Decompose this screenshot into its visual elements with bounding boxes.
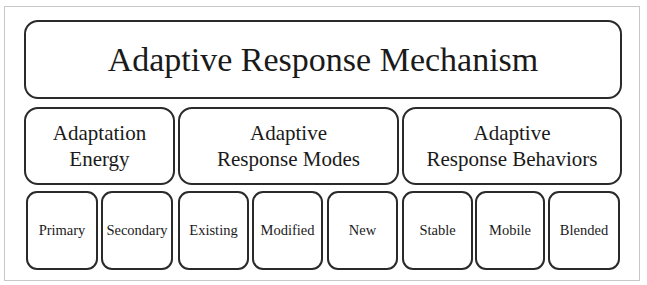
leaf-label: Primary [39,222,86,239]
leaf-node-existing: Existing [178,191,249,270]
category-node-adaptive-response-modes: Adaptive Response Modes [178,107,399,185]
leaf-node-modified: Modified [252,191,323,270]
category-node-adaptation-energy: Adaptation Energy [24,107,175,185]
root-node-label: Adaptive Response Mechanism [108,41,539,79]
leaf-node-mobile: Mobile [475,191,545,270]
category-label-line1: Adaptive [427,120,598,146]
leaf-node-blended: Blended [548,191,620,270]
category-label-line2: Energy [53,146,146,172]
category-label-line1: Adaptation [53,120,146,146]
leaf-node-secondary: Secondary [101,191,173,270]
leaf-label: Modified [261,222,315,239]
leaf-node-primary: Primary [26,191,98,270]
leaf-node-new: New [327,191,398,270]
category-label-line1: Adaptive [217,120,360,146]
leaf-label: Existing [189,222,237,239]
leaf-label: New [349,222,376,239]
category-node-adaptive-response-behaviors: Adaptive Response Behaviors [402,107,622,185]
root-node-adaptive-response-mechanism: Adaptive Response Mechanism [24,20,622,99]
leaf-node-stable: Stable [402,191,473,270]
leaf-label: Mobile [489,222,531,239]
category-label-line2: Response Behaviors [427,146,598,172]
category-label-line2: Response Modes [217,146,360,172]
leaf-label: Blended [560,222,608,239]
leaf-label: Secondary [106,222,167,239]
leaf-label: Stable [419,222,455,239]
